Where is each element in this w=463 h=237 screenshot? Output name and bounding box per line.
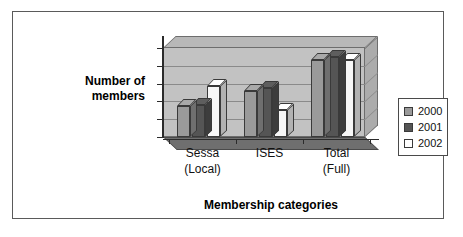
x-category-label-1: ISES xyxy=(235,145,305,161)
bar-side-face xyxy=(220,80,227,137)
y-tick-60 xyxy=(157,84,162,85)
bar-side-face xyxy=(205,98,212,137)
bar-side-face xyxy=(354,53,361,137)
chart-frame: Number of members 100 80 60 40 20 0 Sess… xyxy=(12,11,444,219)
x-category-label-0: Sessa (Local) xyxy=(168,145,238,177)
x-axis-line xyxy=(163,139,379,140)
plot-area xyxy=(163,36,395,154)
x-category-main-0: Sessa xyxy=(186,146,219,160)
legend-item-2002[interactable]: 2002 xyxy=(404,135,443,151)
bar-side-face xyxy=(339,50,346,137)
x-axis-title: Membership categories xyxy=(163,198,379,212)
y-axis-title: Number of members xyxy=(43,74,145,104)
bar-2000-2[interactable] xyxy=(311,60,324,137)
chart-figure: Number of members 100 80 60 40 20 0 Sess… xyxy=(0,0,463,237)
legend-label: 2000 xyxy=(418,105,442,117)
plot-top-slab xyxy=(163,36,378,48)
x-tick-2 xyxy=(303,140,304,144)
y-axis-line xyxy=(162,36,164,138)
legend-swatch-icon xyxy=(404,139,413,148)
chart-legend: 200020012002 xyxy=(398,98,448,156)
x-category-label-2: Total (Full) xyxy=(302,145,372,177)
bar-2000-0[interactable] xyxy=(177,106,190,137)
y-tick-100 xyxy=(157,48,162,49)
legend-label: 2002 xyxy=(418,137,442,149)
bar-side-face xyxy=(272,82,279,137)
plot-side-wall xyxy=(365,36,378,137)
bar-side-face xyxy=(257,84,264,137)
bar-side-face xyxy=(324,53,331,137)
y-tick-80 xyxy=(157,66,162,67)
bar-front-face xyxy=(177,106,190,137)
legend-label: 2001 xyxy=(418,121,442,133)
legend-item-2001[interactable]: 2001 xyxy=(404,119,443,135)
legend-item-2000[interactable]: 2000 xyxy=(404,103,443,119)
x-tick-3 xyxy=(370,140,371,144)
bar-front-face xyxy=(244,91,257,137)
y-tick-40 xyxy=(157,101,162,102)
y-tick-20 xyxy=(157,119,162,120)
y-axis-title-line2: members xyxy=(92,89,145,103)
x-category-main-1: ISES xyxy=(256,146,283,160)
x-category-sub-0: (Local) xyxy=(168,161,238,177)
legend-swatch-icon xyxy=(404,123,413,132)
bar-side-face xyxy=(190,99,197,137)
x-tick-0 xyxy=(169,140,170,144)
x-tick-1 xyxy=(236,140,237,144)
x-category-main-2: Total xyxy=(324,146,349,160)
bar-2000-1[interactable] xyxy=(244,91,257,137)
y-tick-0 xyxy=(157,137,162,138)
x-category-sub-2: (Full) xyxy=(302,161,372,177)
y-axis-title-line1: Number of xyxy=(85,74,145,88)
legend-swatch-icon xyxy=(404,107,413,116)
bar-front-face xyxy=(311,60,324,137)
